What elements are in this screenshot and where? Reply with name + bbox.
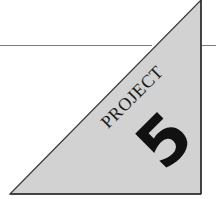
project-badge: PROJECT 5: [0, 0, 216, 199]
